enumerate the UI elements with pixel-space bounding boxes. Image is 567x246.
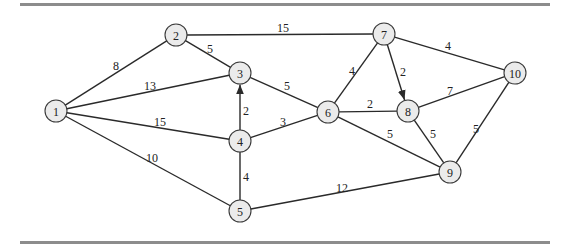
- edge-weight-label: 13: [144, 79, 156, 93]
- node-label: 5: [237, 205, 243, 219]
- edges-layer: [65, 34, 509, 209]
- network-diagram: 813151051552341242524755 12345678910: [0, 0, 567, 246]
- edge-weight-label: 10: [146, 151, 158, 165]
- node-label: 6: [325, 106, 331, 120]
- node-6: 6: [317, 101, 339, 123]
- node-label: 3: [237, 67, 243, 81]
- edge-1-4: [67, 113, 229, 139]
- edge-weight-label: 5: [387, 127, 393, 141]
- node-7: 7: [373, 23, 395, 45]
- edge-10-9: [456, 82, 509, 163]
- node-1: 1: [45, 100, 67, 122]
- edge-weight-label: 8: [113, 59, 119, 73]
- node-8: 8: [397, 100, 419, 122]
- edge-1-2: [65, 41, 166, 105]
- node-label: 2: [173, 29, 179, 43]
- edge-weight-label: 4: [445, 39, 451, 53]
- edge-weight-label: 2: [400, 65, 406, 79]
- node-label: 9: [447, 166, 453, 180]
- edge-weight-label: 4: [349, 64, 355, 78]
- edge-6-8: [339, 111, 397, 112]
- edge-weight-label: 3: [280, 115, 286, 129]
- edge-weight-label: 5: [430, 127, 436, 141]
- node-4: 4: [229, 130, 251, 152]
- node-5: 5: [229, 200, 251, 222]
- edge-labels-layer: 813151051552341242524755: [113, 21, 479, 195]
- edge-6-9: [338, 117, 440, 167]
- edge-weight-label: 5: [284, 79, 290, 93]
- node-label: 4: [237, 135, 243, 149]
- edge-weight-label: 15: [154, 115, 166, 129]
- edge-8-10: [418, 77, 504, 108]
- node-10: 10: [504, 62, 526, 84]
- edge-weight-label: 2: [367, 97, 373, 111]
- edge-6-7: [334, 43, 377, 103]
- bottom-rule: [20, 241, 550, 244]
- edge-weight-label: 5: [207, 42, 213, 56]
- node-3: 3: [229, 62, 251, 84]
- node-2: 2: [165, 24, 187, 46]
- edge-weight-label: 2: [243, 104, 249, 118]
- edge-weight-label: 7: [447, 84, 453, 98]
- node-9: 9: [439, 161, 461, 183]
- edge-weight-label: 5: [473, 122, 479, 136]
- edge-weight-label: 15: [277, 21, 289, 35]
- node-label: 7: [381, 28, 387, 42]
- edge-weight-label: 12: [336, 181, 348, 195]
- node-label: 8: [405, 105, 411, 119]
- edge-weight-label: 4: [243, 170, 249, 184]
- node-label: 1: [53, 105, 59, 119]
- node-label: 10: [509, 67, 521, 81]
